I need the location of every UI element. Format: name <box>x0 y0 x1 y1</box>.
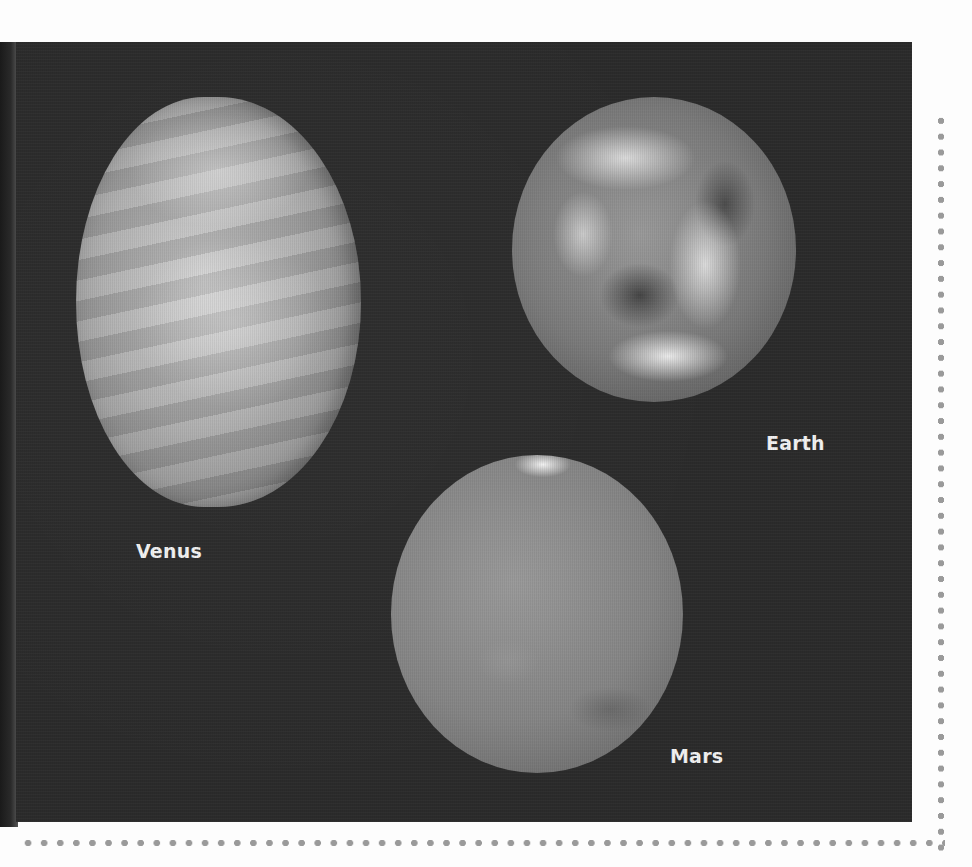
venus-label: Venus <box>136 540 202 562</box>
planets-photo: Venus Earth Mars <box>16 42 912 822</box>
venus-planet <box>76 97 361 507</box>
dotted-border-right <box>937 113 945 858</box>
dotted-border-bottom <box>20 839 945 847</box>
earth-planet <box>512 97 796 402</box>
earth-label: Earth <box>766 432 825 454</box>
mars-label: Mars <box>670 745 723 767</box>
mars-planet <box>391 455 683 773</box>
page: Venus Earth Mars <box>0 0 972 867</box>
